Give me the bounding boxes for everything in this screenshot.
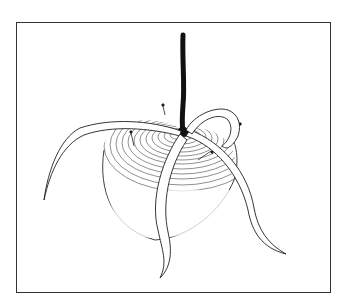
stem bbox=[178, 35, 188, 137]
fruit-illustration bbox=[0, 0, 347, 306]
